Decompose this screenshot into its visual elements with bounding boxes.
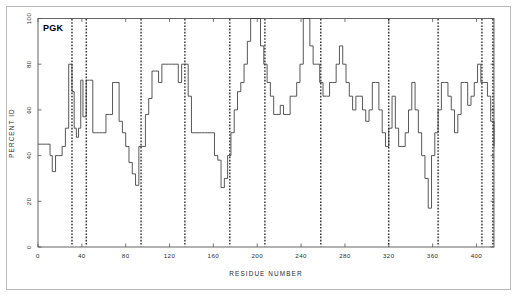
x-tick-label: 240	[295, 252, 307, 259]
series-label: PGK	[43, 23, 64, 33]
x-tick-label: 120	[164, 252, 176, 259]
y-axis-title: PERCENT ID	[8, 108, 15, 158]
plot-axes-frame	[38, 19, 494, 248]
y-axis-tick-labels: 020406080100	[25, 13, 32, 249]
percent-identity-plot: 04080120160200240280320360400 0204060801…	[0, 0, 519, 297]
x-tick-label: 400	[471, 252, 483, 259]
x-axis-title: RESIDUE NUMBER	[229, 270, 302, 277]
x-tick-label: 200	[251, 252, 263, 259]
y-tick-label: 100	[25, 13, 32, 25]
x-tick-label: 160	[208, 252, 220, 259]
y-axis-ticks	[38, 19, 494, 248]
y-tick-label: 0	[25, 245, 32, 249]
x-tick-label: 0	[36, 252, 40, 259]
percent-identity-trace	[38, 19, 494, 209]
x-tick-label: 320	[383, 252, 395, 259]
y-tick-label: 80	[25, 60, 32, 68]
figure-container: 04080120160200240280320360400 0204060801…	[0, 0, 519, 297]
trace-line	[38, 19, 494, 209]
x-tick-label: 280	[339, 252, 351, 259]
x-tick-label: 40	[78, 252, 86, 259]
x-tick-label: 80	[122, 252, 130, 259]
y-tick-label: 20	[25, 197, 32, 205]
y-tick-label: 60	[25, 106, 32, 114]
y-tick-label: 40	[25, 152, 32, 160]
x-tick-label: 360	[427, 252, 439, 259]
x-axis-tick-labels: 04080120160200240280320360400	[36, 252, 482, 259]
domain-marker-lines	[72, 19, 493, 247]
